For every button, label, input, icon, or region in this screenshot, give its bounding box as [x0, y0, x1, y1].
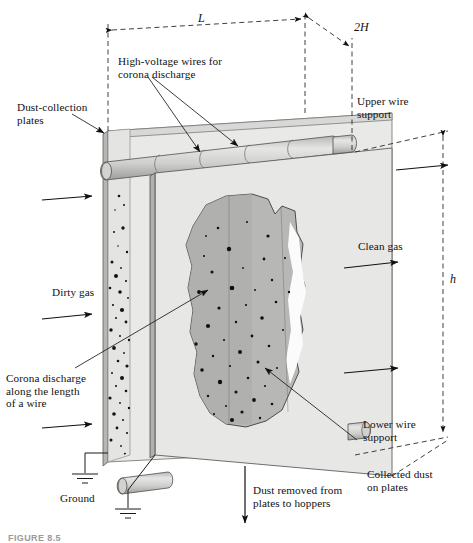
label-high-voltage-wires: High-voltage wires for corona discharge [118, 55, 222, 80]
label-upper-wire-support: Upper wire support [357, 95, 409, 120]
high-voltage-wire-lower [117, 472, 173, 494]
label-lower-wire-support: Lower wire support [363, 418, 416, 443]
label-clean-gas: Clean gas [358, 240, 403, 253]
figure-caption: FIGURE 8.5 [8, 533, 61, 543]
dimension-label-h: h [450, 272, 456, 287]
label-dust-removed: Dust removed from plates to hoppers [253, 484, 342, 509]
dimension-label-2H: 2H [354, 20, 369, 35]
collected-dust-blob [186, 194, 306, 427]
arrow-right-icon [42, 424, 92, 428]
label-dirty-gas: Dirty gas [52, 286, 94, 299]
arrow-right-icon [396, 165, 448, 170]
label-collected-dust: Collected dust on plates [367, 468, 433, 493]
arrow-right-icon [42, 314, 92, 319]
label-dust-collection-plates: Dust-collection plates [17, 101, 87, 126]
dimension-label-L: L [198, 11, 205, 26]
label-ground: Ground [60, 492, 95, 505]
label-corona-discharge: Corona discharge along the length of a w… [6, 372, 86, 410]
figure-canvas: Dust-collection plates High-voltage wire… [0, 0, 473, 543]
arrow-right-icon [42, 196, 92, 200]
precipitator-diagram [0, 0, 473, 543]
upper-wire-support-stub [333, 135, 357, 154]
